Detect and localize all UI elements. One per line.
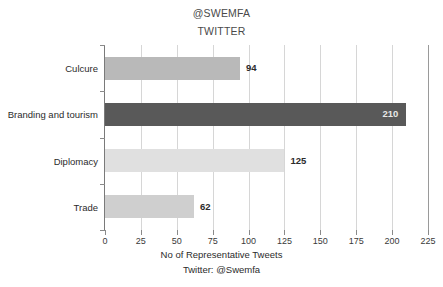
source-note: Twitter: @Swemfa [0, 264, 443, 275]
bar-chart: @SWEMFA TWITTER CulcureBranding and tour… [0, 0, 443, 287]
bar-value-label: 125 [290, 155, 306, 166]
category-label: Branding and tourism [8, 109, 98, 120]
bar [105, 149, 284, 172]
x-axis-tick [141, 230, 142, 235]
x-axis-tick [356, 230, 357, 235]
x-axis-tick-label: 225 [420, 236, 435, 246]
y-axis-tick [100, 45, 105, 46]
x-gridline [428, 45, 429, 230]
y-axis-tick [100, 138, 105, 139]
x-axis-tick-label: 100 [241, 236, 256, 246]
x-gridline [392, 45, 393, 230]
bar [105, 103, 406, 126]
category-axis-labels: CulcureBranding and tourismDiplomacyTrad… [0, 45, 100, 230]
x-gridline [320, 45, 321, 230]
x-axis-title: No of Representative Tweets [0, 249, 443, 260]
y-axis-tick [100, 230, 105, 231]
x-axis-tick [249, 230, 250, 235]
x-gridline [284, 45, 285, 230]
x-axis-tick-label: 175 [349, 236, 364, 246]
bar-value-label: 210 [382, 108, 398, 119]
x-axis-tick-label: 50 [172, 236, 182, 246]
bar-value-label: 94 [246, 62, 257, 73]
x-axis-tick-label: 0 [102, 236, 107, 246]
x-axis-tick [213, 230, 214, 235]
chart-subtitle: TWITTER [0, 24, 443, 39]
x-axis-tick-label: 25 [136, 236, 146, 246]
y-axis-tick [100, 184, 105, 185]
x-gridline [356, 45, 357, 230]
category-label: Trade [74, 201, 98, 212]
bar [105, 195, 194, 218]
bar-value-label: 62 [200, 201, 211, 212]
x-axis-tick-label: 125 [277, 236, 292, 246]
x-axis-tick-label: 200 [385, 236, 400, 246]
x-axis-tick-label: 75 [208, 236, 218, 246]
x-axis-tick [284, 230, 285, 235]
bar [105, 57, 240, 80]
x-axis-tick [320, 230, 321, 235]
chart-title: @SWEMFA [0, 6, 443, 21]
category-label: Diplomacy [54, 155, 98, 166]
x-axis-tick [177, 230, 178, 235]
x-axis-tick [392, 230, 393, 235]
plot-area: 02550751001251501752002259421012562 [105, 45, 428, 230]
y-axis-tick [100, 91, 105, 92]
x-axis-tick-label: 150 [313, 236, 328, 246]
x-axis-tick [428, 230, 429, 235]
category-label: Culcure [65, 63, 98, 74]
x-axis-tick [105, 230, 106, 235]
chart-title-block: @SWEMFA TWITTER [0, 6, 443, 39]
